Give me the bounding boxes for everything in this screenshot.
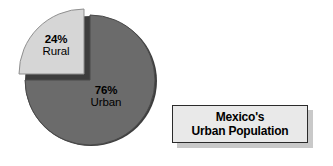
title-line-1: Mexico's [216, 110, 265, 124]
pie-chart: 24% Rural 76% Urban [0, 0, 170, 166]
pie-slice-rural[interactable] [19, 9, 84, 74]
pie-chart-figure: 24% Rural 76% Urban Mexico's Urban Popul… [0, 0, 333, 166]
pie-svg [0, 0, 170, 166]
title-box: Mexico's Urban Population [172, 105, 308, 143]
title-line-2: Urban Population [192, 124, 289, 138]
